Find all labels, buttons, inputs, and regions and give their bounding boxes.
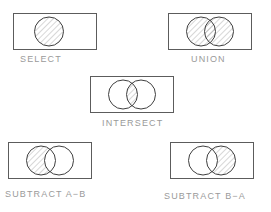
select-circle-a <box>35 17 64 46</box>
caption-subtract-ba: SUBTRACT B−A <box>164 191 246 202</box>
caption-subtract-ab: SUBTRACT A−B <box>5 189 86 200</box>
caption-intersect: INTERSECT <box>102 118 163 129</box>
caption-union: UNION <box>191 54 226 65</box>
panel-select <box>13 13 97 50</box>
intersect-figure <box>90 76 174 113</box>
panel-subtract-ab <box>8 142 92 179</box>
select-figure <box>13 13 97 50</box>
subtract-ba-shaded-region <box>170 142 254 179</box>
union-shaded-region <box>187 17 234 46</box>
subtract-ba-figure <box>170 142 254 179</box>
panel-union <box>168 13 252 50</box>
panel-subtract-ba <box>170 142 254 179</box>
boolean-operations-diagram: SELECT UNION <box>0 0 271 212</box>
subtract-ab-figure <box>8 142 92 179</box>
caption-select: SELECT <box>20 54 62 65</box>
union-figure <box>168 13 252 50</box>
panel-intersect <box>90 76 174 113</box>
subtract-ab-shaded-region <box>8 142 92 179</box>
